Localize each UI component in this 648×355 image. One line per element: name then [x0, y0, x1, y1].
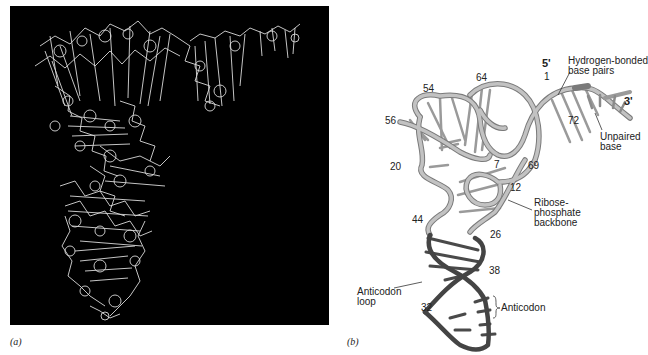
unpaired-base-annotation: Unpaired base — [600, 132, 641, 152]
residue-56-label: 56 — [385, 116, 396, 126]
panel-a-caption: (a) — [10, 336, 22, 347]
three-prime-label: 3' — [624, 96, 633, 106]
anticodon-annotation: Anticodon — [501, 303, 545, 313]
panel-b-caption: (b) — [347, 336, 359, 347]
residue-7-label: 7 — [494, 160, 500, 170]
residue-1-label: 1 — [544, 72, 550, 82]
ribose-phosphate-backbone-annotation: Ribose- phosphate backbone — [534, 198, 581, 228]
trna-schematic-panel: 5' 3' 1 54 64 56 72 20 7 69 12 44 26 38 … — [330, 0, 640, 355]
five-prime-label: 5' — [542, 58, 551, 68]
residue-64-label: 64 — [476, 73, 487, 83]
residue-69-label: 69 — [528, 161, 539, 171]
residue-32-label: 32 — [421, 303, 432, 313]
residue-54-label: 54 — [423, 84, 434, 94]
anticodon-loop-annotation: Anticodon loop — [357, 287, 401, 307]
residue-44-label: 44 — [412, 215, 423, 225]
residue-12-label: 12 — [510, 183, 521, 193]
trna-stick-model-panel — [10, 6, 329, 325]
hydrogen-bonded-base-pairs-annotation: Hydrogen-bonded base pairs — [568, 56, 648, 76]
residue-72-label: 72 — [568, 116, 579, 126]
residue-26-label: 26 — [490, 230, 501, 240]
stick-model-graphic — [10, 6, 329, 325]
residue-20-label: 20 — [390, 162, 401, 172]
residue-38-label: 38 — [489, 266, 500, 276]
